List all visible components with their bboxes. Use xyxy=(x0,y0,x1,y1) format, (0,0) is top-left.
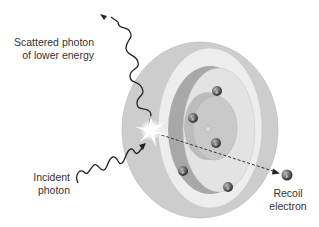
electron-icon: e xyxy=(178,166,188,176)
recoil-electron-icon: e xyxy=(282,170,293,181)
svg-text:e: e xyxy=(215,141,218,147)
svg-text:e: e xyxy=(192,116,195,122)
svg-text:e: e xyxy=(227,185,230,191)
recoil-electron-label-line1: Recoil xyxy=(266,187,310,200)
incident-photon-label: Incident photon xyxy=(22,171,70,197)
electron-icon: e xyxy=(223,182,233,192)
scattered-photon-label: Scattered photon of lower energy xyxy=(8,36,94,62)
nucleus-icon xyxy=(205,126,211,132)
svg-text:e: e xyxy=(216,89,219,95)
electron-icon: e xyxy=(211,138,221,148)
recoil-electron-label: Recoil electron xyxy=(266,187,310,213)
recoil-electron-label-line2: electron xyxy=(266,200,310,213)
electron-icon: e xyxy=(188,113,198,123)
svg-text:e: e xyxy=(286,173,289,179)
scattered-photon-label-line1: Scattered photon xyxy=(8,36,94,49)
electron-icon: e xyxy=(212,86,222,96)
svg-text:e: e xyxy=(182,169,185,175)
incident-photon-label-line2: photon xyxy=(22,184,70,197)
compton-scattering-diagram: e e e e e e xyxy=(0,0,319,227)
incident-photon-label-line1: Incident xyxy=(22,171,70,184)
scattered-photon-label-line2: of lower energy xyxy=(8,49,94,62)
